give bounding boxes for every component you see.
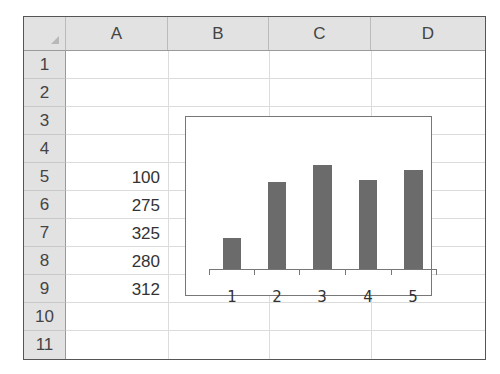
column-header-b[interactable]: B — [168, 17, 269, 50]
column-header-c[interactable]: C — [269, 17, 371, 50]
row-11[interactable] — [66, 331, 485, 359]
bar-5[interactable] — [404, 170, 423, 269]
column-header-a[interactable]: A — [66, 17, 168, 50]
x-axis-tick — [254, 269, 255, 275]
row-header-1[interactable]: 1 — [24, 51, 66, 79]
column-header-d[interactable]: D — [371, 17, 485, 50]
bar-1[interactable] — [223, 238, 241, 269]
select-all-triangle-icon — [51, 36, 59, 44]
x-axis-tick — [299, 269, 300, 275]
row-header-6[interactable]: 6 — [24, 191, 66, 219]
row-header-3[interactable]: 3 — [24, 107, 66, 135]
row-10[interactable] — [66, 303, 485, 331]
x-axis-label-4: 4 — [353, 288, 383, 306]
row-1[interactable] — [66, 51, 485, 79]
bar-4[interactable] — [359, 180, 377, 269]
column-header-row: A B C D — [24, 17, 485, 51]
row-header-11[interactable]: 11 — [24, 331, 66, 359]
cell-a6[interactable]: 275 — [66, 191, 168, 219]
x-axis-line — [209, 269, 437, 270]
row-header-8[interactable]: 8 — [24, 247, 66, 275]
row-header-5[interactable]: 5 — [24, 163, 66, 191]
row-header-2[interactable]: 2 — [24, 79, 66, 107]
x-axis-tick — [209, 269, 210, 275]
row-header-10[interactable]: 10 — [24, 303, 66, 331]
bar-3[interactable] — [313, 165, 332, 269]
x-axis-tick — [345, 269, 346, 275]
x-axis-tick — [436, 269, 437, 275]
cell-a5[interactable]: 100 — [66, 163, 168, 191]
embedded-bar-chart[interactable]: 1 2 3 4 5 — [185, 116, 432, 296]
select-all-corner[interactable] — [24, 17, 66, 50]
bar-2[interactable] — [268, 182, 286, 269]
x-axis-label-3: 3 — [307, 288, 337, 306]
row-header-4[interactable]: 4 — [24, 135, 66, 163]
row-header-7[interactable]: 7 — [24, 219, 66, 247]
row-header-9[interactable]: 9 — [24, 275, 66, 303]
row-2[interactable] — [66, 79, 485, 107]
cell-a9[interactable]: 312 — [66, 275, 168, 303]
x-axis-label-1: 1 — [217, 288, 247, 306]
cell-a8[interactable]: 280 — [66, 247, 168, 275]
x-axis-tick — [391, 269, 392, 275]
x-axis-label-2: 2 — [262, 288, 292, 306]
x-axis-label-5: 5 — [398, 288, 428, 306]
cell-a7[interactable]: 325 — [66, 219, 168, 247]
